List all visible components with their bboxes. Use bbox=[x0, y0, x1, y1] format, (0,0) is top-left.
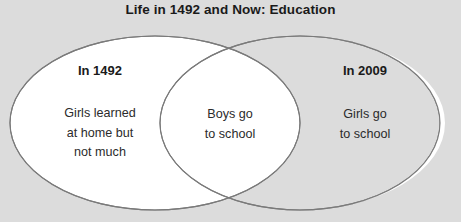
right-set-body-line: to school bbox=[305, 125, 425, 145]
intersection-body-text: Boys go to school bbox=[175, 105, 285, 144]
left-set-body-text: Girls learned at home but not much bbox=[36, 104, 164, 163]
left-set-body-line: not much bbox=[36, 143, 164, 163]
right-set-heading: In 2009 bbox=[305, 63, 425, 78]
right-set-body-text: Girls go to school bbox=[305, 105, 425, 144]
left-set-heading: In 1492 bbox=[40, 63, 160, 78]
left-set-body-line: Girls learned bbox=[36, 104, 164, 124]
intersection-body-line: Boys go bbox=[175, 105, 285, 125]
left-set-body-line: at home but bbox=[36, 124, 164, 144]
right-set-body-line: Girls go bbox=[305, 105, 425, 125]
venn-diagram: Life in 1492 and Now: Education In 1492 … bbox=[0, 0, 461, 222]
intersection-body-line: to school bbox=[175, 125, 285, 145]
